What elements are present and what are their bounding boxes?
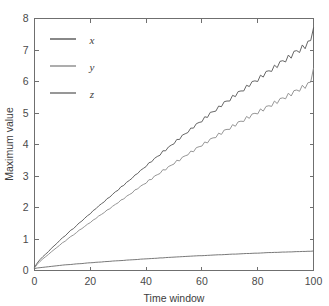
chart-figure: 012345678 020406080100 Maximum value Tim… — [0, 0, 329, 306]
x-tick-label: 80 — [252, 275, 264, 287]
y-tick-label: 5 — [23, 107, 29, 119]
x-tick-label: 60 — [196, 275, 208, 287]
y-tick-label: 4 — [23, 138, 29, 150]
y-tick-label: 7 — [23, 44, 29, 56]
x-tick-label: 100 — [305, 275, 323, 287]
chart-background — [0, 0, 329, 306]
y-tick-label: 8 — [23, 12, 29, 24]
x-axis-title: Time window — [144, 292, 205, 304]
y-tick-label: 3 — [23, 170, 29, 182]
y-axis-tick-labels: 012345678 — [23, 12, 29, 276]
y-tick-label: 2 — [23, 201, 29, 213]
y-tick-label: 6 — [23, 75, 29, 87]
y-axis-title: Maximum value — [3, 107, 15, 181]
y-tick-label: 1 — [23, 233, 29, 245]
x-tick-label: 20 — [84, 275, 96, 287]
y-tick-label: 0 — [23, 264, 29, 276]
legend-label-y: y — [89, 61, 95, 73]
x-tick-label: 0 — [32, 275, 38, 287]
x-tick-label: 40 — [140, 275, 152, 287]
legend-label-x: x — [89, 34, 95, 46]
legend-label-z: z — [89, 88, 95, 100]
line-chart: 012345678 020406080100 Maximum value Tim… — [0, 0, 329, 306]
